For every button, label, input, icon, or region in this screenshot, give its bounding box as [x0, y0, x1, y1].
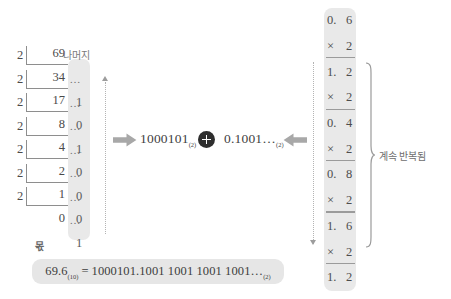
multiplication-operand: ×: [327, 90, 342, 105]
multiplication-operand: ×: [327, 245, 342, 260]
multiplication-row: × 2: [324, 136, 370, 162]
division-dividend: 17: [53, 94, 66, 107]
division-dividend: 1: [59, 188, 65, 201]
multiplication-digit: 6: [342, 219, 356, 234]
division-divisor: 2: [14, 142, 26, 157]
division-divisor: 2: [14, 119, 26, 134]
multiplication-operand: ×: [327, 142, 342, 157]
integer-part-base: (2): [189, 141, 197, 148]
division-row: 2 8 …: [14, 115, 106, 139]
multiplication-row: 1. 2: [324, 265, 370, 291]
repeat-brace-icon: [365, 62, 376, 248]
quotient-label: 몫: [35, 238, 44, 253]
multiplication-operand: 1.: [327, 219, 342, 234]
division-bracket: 34: [26, 70, 68, 89]
remainder-value: 0: [68, 208, 90, 232]
division-bracket: 17: [26, 93, 68, 112]
remainder-value: 1: [68, 138, 90, 162]
fraction-part-value: 0.1001…: [224, 131, 276, 146]
remainder-value: 1: [68, 232, 90, 256]
multiplication-operand: ×: [327, 39, 342, 54]
division-ladder: 2 69 2 34 … 2 17 … 2 8 … 2 4 … 2 2: [14, 44, 106, 232]
division-bracket: 69: [26, 46, 68, 65]
multiplication-digit: 2: [342, 90, 356, 105]
multiplication-operand: 0.: [327, 13, 342, 28]
multiplication-row: 0. 6: [324, 8, 370, 34]
division-row: 2 34 …: [14, 68, 106, 92]
multiplication-row: 0. 4: [324, 111, 370, 137]
multiplication-digit: 2: [342, 270, 356, 285]
multiplication-operand: ×: [327, 193, 342, 208]
multiplication-digit: 2: [342, 65, 356, 80]
division-dividend: 2: [59, 165, 65, 178]
integer-part-value: 1000101: [140, 131, 189, 146]
multiplication-row: × 2: [324, 85, 370, 111]
arrow-down-icon: [310, 240, 316, 245]
plus-operator-icon: [198, 131, 215, 148]
division-row: 2 17 …: [14, 91, 106, 115]
multiplication-row: 1. 2: [324, 59, 370, 85]
result-equals-sign: =: [81, 264, 88, 278]
remainder-value: 0: [68, 185, 90, 209]
multiplication-row: × 2: [324, 188, 370, 214]
division-row: 2 69: [14, 44, 106, 68]
division-row: 2 4 …: [14, 138, 106, 162]
division-bracket: 2: [26, 164, 68, 183]
division-divisor: 2: [14, 166, 26, 181]
multiplication-digit: 4: [342, 116, 356, 131]
division-divisor: 2: [14, 189, 26, 204]
division-row: 2 1 …: [14, 185, 106, 209]
division-dividend: 34: [53, 71, 66, 84]
remainder-value: [68, 67, 90, 91]
remainder-label: 나머지: [63, 47, 89, 62]
division-bracket: 4: [26, 140, 68, 159]
division-divisor: 2: [14, 48, 26, 63]
multiplication-row: 1. 6: [324, 214, 370, 240]
multiplication-row: 0. 8: [324, 162, 370, 188]
integer-part-binary: 1000101(2): [140, 131, 196, 148]
division-divisor: 2: [14, 72, 26, 87]
remainder-value: 0: [68, 161, 90, 185]
multiplication-operand: 1.: [327, 270, 342, 285]
arrow-right-icon: [113, 133, 137, 147]
division-divisor: 2: [14, 95, 26, 110]
fraction-part-binary: 0.1001…(2): [224, 131, 284, 148]
arrow-left-icon: [283, 133, 307, 147]
result-decimal-value: 69.6: [45, 264, 67, 278]
remainder-values: 1 0 1 0 0 0 1: [68, 67, 90, 255]
read-direction-line-right: [313, 62, 314, 244]
division-bracket: 0: [26, 211, 68, 230]
multiplication-operand: 0.: [327, 167, 342, 182]
division-row: 2 2 …: [14, 162, 106, 186]
read-direction-line-left: [105, 82, 106, 234]
multiplication-row: × 2: [324, 239, 370, 265]
multiplication-digit: 2: [342, 142, 356, 157]
multiplication-row: × 2: [324, 34, 370, 60]
multiplication-operand: 1.: [327, 65, 342, 80]
remainder-value: 0: [68, 114, 90, 138]
result-binary-value: 1000101.1001 1001 1001 1001…: [92, 264, 264, 278]
division-dividend: 4: [59, 141, 65, 154]
multiplication-digit: 2: [342, 245, 356, 260]
repeat-label: 계속 반복됨: [379, 148, 426, 163]
remainder-value: 1: [68, 91, 90, 115]
multiplication-operand: 0.: [327, 116, 342, 131]
result-equation: 69.6(10)=1000101.1001 1001 1001 1001…(2): [32, 259, 284, 284]
multiplication-digit: 6: [342, 13, 356, 28]
division-bracket: 8: [26, 117, 68, 136]
division-row: 0 …: [14, 209, 106, 233]
multiplication-digit: 8: [342, 167, 356, 182]
result-binary-base: (2): [263, 273, 271, 280]
division-dividend: 0: [59, 212, 65, 225]
result-decimal-base: (10): [68, 273, 79, 280]
multiplication-column: 0. 6 × 2 1. 2 × 2 0. 4 × 2 0. 8 × 2 1. 6…: [324, 8, 370, 291]
division-dividend: 8: [59, 118, 65, 131]
multiplication-digit: 2: [342, 193, 356, 208]
division-bracket: 1: [26, 187, 68, 206]
arrow-up-icon: [102, 76, 108, 81]
multiplication-digit: 2: [342, 39, 356, 54]
